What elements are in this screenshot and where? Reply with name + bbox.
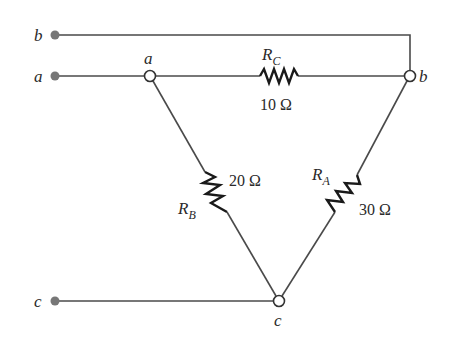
terminal-c-dot-icon — [51, 297, 60, 306]
resistor-ra-value: 30 Ω — [359, 201, 391, 218]
node-b-label: b — [419, 67, 428, 86]
wire-node-b-to-ra — [357, 81, 407, 175]
node-a-label: a — [144, 49, 153, 68]
resistor-rc-name: RC — [261, 45, 281, 68]
wire-terminal-b-to-node-b — [55, 35, 410, 70]
delta-circuit-diagram: b a c a b c RC 10 Ω 20 Ω RB RA 30 Ω — [0, 0, 454, 362]
resistor-rb-icon — [203, 172, 227, 212]
node-a-icon — [145, 71, 156, 82]
terminal-b-dot-icon — [51, 31, 60, 40]
node-b-icon — [405, 71, 416, 82]
terminal-c-label: c — [34, 292, 42, 311]
terminal-b-label: b — [34, 26, 43, 45]
resistor-rb-value: 20 Ω — [229, 172, 261, 189]
wire-ra-to-node-c — [282, 212, 335, 296]
resistor-ra-name: RA — [311, 165, 330, 188]
node-c-icon — [274, 296, 285, 307]
wire-node-a-to-rb — [153, 81, 205, 172]
wire-rb-to-node-c — [227, 212, 276, 296]
terminal-a-label: a — [34, 67, 43, 86]
resistor-rc-value: 10 Ω — [260, 96, 292, 113]
resistor-rc-icon — [260, 69, 298, 83]
node-c-label: c — [274, 311, 282, 330]
terminal-a-dot-icon — [51, 72, 60, 81]
resistors — [203, 69, 360, 212]
resistor-ra-icon — [327, 175, 360, 212]
resistor-rb-name: RB — [177, 199, 196, 222]
terminal-dots — [51, 31, 60, 306]
wires — [55, 35, 410, 301]
